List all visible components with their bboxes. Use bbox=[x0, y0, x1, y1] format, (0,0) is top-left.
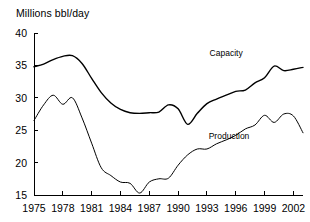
x-tick-label: 1981 bbox=[80, 202, 104, 214]
series-label-capacity: Capacity bbox=[210, 48, 244, 58]
line-chart-plot: 152025303540 197519781981198419871990199… bbox=[0, 0, 310, 222]
x-tick-label: 1987 bbox=[138, 202, 162, 214]
y-tick-label: 20 bbox=[15, 157, 27, 169]
series-annotations-group: CapacityProduction bbox=[209, 48, 250, 141]
x-tick-label: 1993 bbox=[195, 202, 219, 214]
x-tick-label: 1975 bbox=[22, 202, 46, 214]
x-axis-tick-labels: 1975197819811984198719901993199619992002 bbox=[22, 202, 305, 214]
x-tick-label: 2002 bbox=[282, 202, 306, 214]
series-label-production: Production bbox=[209, 131, 250, 141]
y-tick-label: 30 bbox=[15, 92, 27, 104]
y-axis-tick-labels: 152025303540 bbox=[15, 27, 27, 201]
chart-container: Millions bbl/day 152025303540 1975197819… bbox=[0, 0, 310, 222]
x-tick-label: 1984 bbox=[109, 202, 133, 214]
x-axis-ticks bbox=[34, 191, 293, 195]
data-series-group bbox=[34, 55, 303, 193]
x-tick-label: 1999 bbox=[253, 202, 277, 214]
x-tick-label: 1978 bbox=[51, 202, 75, 214]
y-tick-label: 25 bbox=[15, 124, 27, 136]
x-axis-group: 1975197819811984198719901993199619992002 bbox=[22, 191, 305, 214]
y-tick-label: 15 bbox=[15, 189, 27, 201]
x-tick-label: 1996 bbox=[224, 202, 248, 214]
x-tick-label: 1990 bbox=[166, 202, 190, 214]
y-tick-label: 35 bbox=[15, 59, 27, 71]
series-line-capacity bbox=[34, 55, 303, 124]
y-axis-group: 152025303540 bbox=[15, 27, 38, 201]
y-tick-label: 40 bbox=[15, 27, 27, 39]
series-line-production bbox=[34, 95, 303, 193]
